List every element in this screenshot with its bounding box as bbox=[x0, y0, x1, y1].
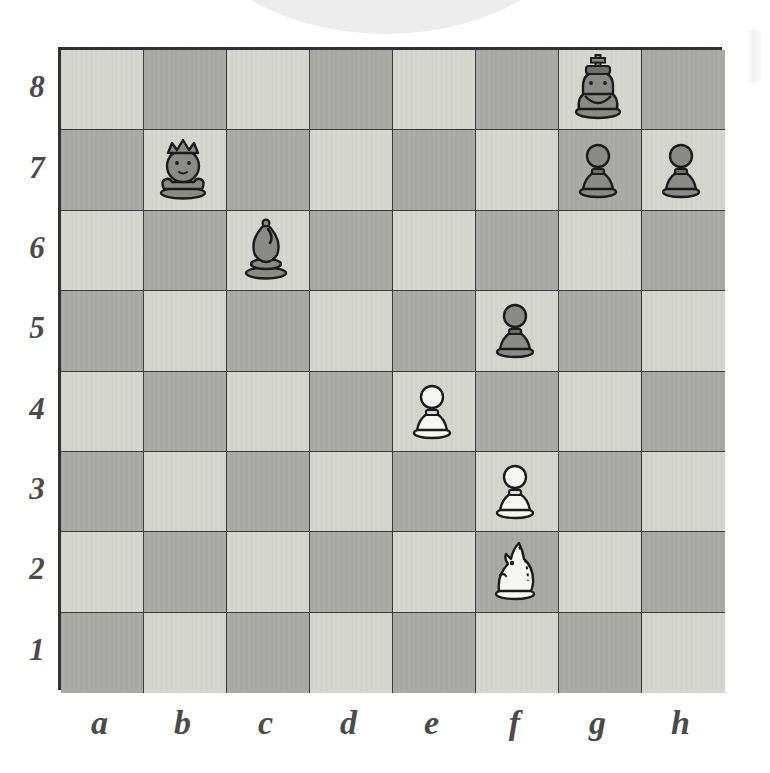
square-b5[interactable] bbox=[144, 291, 227, 371]
rank-label-2: 2 bbox=[22, 553, 52, 584]
square-a6[interactable] bbox=[61, 211, 144, 291]
square-d4[interactable] bbox=[310, 372, 393, 452]
black-king-g8[interactable] bbox=[556, 47, 639, 127]
square-e8[interactable] bbox=[393, 50, 476, 130]
square-f8[interactable] bbox=[476, 50, 559, 130]
rank-label-7: 7 bbox=[22, 152, 52, 183]
square-a4[interactable] bbox=[61, 372, 144, 452]
square-g4[interactable] bbox=[559, 372, 642, 452]
square-c8[interactable] bbox=[227, 50, 310, 130]
square-b1[interactable] bbox=[144, 613, 227, 693]
square-b2[interactable] bbox=[144, 532, 227, 612]
rank-label-3: 3 bbox=[22, 473, 52, 504]
rank-label-8: 8 bbox=[22, 71, 52, 102]
decorative-arc bbox=[186, 0, 586, 34]
black-pawn-g7[interactable] bbox=[556, 127, 639, 207]
square-e6[interactable] bbox=[393, 211, 476, 291]
square-a7[interactable] bbox=[61, 130, 144, 210]
square-h4[interactable] bbox=[642, 372, 725, 452]
square-d2[interactable] bbox=[310, 532, 393, 612]
file-label-g: g bbox=[568, 706, 628, 740]
square-e5[interactable] bbox=[393, 291, 476, 371]
black-queen-b7[interactable] bbox=[141, 127, 224, 207]
square-a3[interactable] bbox=[61, 452, 144, 532]
square-e3[interactable] bbox=[393, 452, 476, 532]
square-a2[interactable] bbox=[61, 532, 144, 612]
square-b8[interactable] bbox=[144, 50, 227, 130]
edge-smudge bbox=[746, 30, 762, 82]
black-bishop-c6[interactable] bbox=[224, 208, 307, 288]
rank-label-6: 6 bbox=[22, 232, 52, 263]
square-a8[interactable] bbox=[61, 50, 144, 130]
square-d3[interactable] bbox=[310, 452, 393, 532]
rank-label-5: 5 bbox=[22, 312, 52, 343]
rank-label-1: 1 bbox=[22, 634, 52, 665]
square-f4[interactable] bbox=[476, 372, 559, 452]
white-knight-f2[interactable] bbox=[473, 529, 556, 609]
black-pawn-h7[interactable] bbox=[639, 127, 722, 207]
square-h1[interactable] bbox=[642, 613, 725, 693]
square-d6[interactable] bbox=[310, 211, 393, 291]
white-pawn-e4[interactable] bbox=[390, 369, 473, 449]
square-c7[interactable] bbox=[227, 130, 310, 210]
square-b3[interactable] bbox=[144, 452, 227, 532]
white-pawn-f3[interactable] bbox=[473, 449, 556, 529]
square-c3[interactable] bbox=[227, 452, 310, 532]
rank-label-4: 4 bbox=[22, 393, 52, 424]
square-h8[interactable] bbox=[642, 50, 725, 130]
square-g6[interactable] bbox=[559, 211, 642, 291]
square-g2[interactable] bbox=[559, 532, 642, 612]
square-h5[interactable] bbox=[642, 291, 725, 371]
file-label-f: f bbox=[485, 706, 545, 740]
square-e2[interactable] bbox=[393, 532, 476, 612]
square-b4[interactable] bbox=[144, 372, 227, 452]
square-e7[interactable] bbox=[393, 130, 476, 210]
square-c4[interactable] bbox=[227, 372, 310, 452]
square-g5[interactable] bbox=[559, 291, 642, 371]
file-label-e: e bbox=[402, 706, 462, 740]
square-f7[interactable] bbox=[476, 130, 559, 210]
file-label-c: c bbox=[236, 706, 296, 740]
square-e1[interactable] bbox=[393, 613, 476, 693]
file-label-d: d bbox=[319, 706, 379, 740]
file-label-b: b bbox=[153, 706, 213, 740]
square-c2[interactable] bbox=[227, 532, 310, 612]
square-d5[interactable] bbox=[310, 291, 393, 371]
square-c5[interactable] bbox=[227, 291, 310, 371]
square-c1[interactable] bbox=[227, 613, 310, 693]
square-f6[interactable] bbox=[476, 211, 559, 291]
square-d7[interactable] bbox=[310, 130, 393, 210]
square-b6[interactable] bbox=[144, 211, 227, 291]
square-g3[interactable] bbox=[559, 452, 642, 532]
file-label-h: h bbox=[651, 706, 711, 740]
file-label-a: a bbox=[70, 706, 130, 740]
square-g1[interactable] bbox=[559, 613, 642, 693]
square-a1[interactable] bbox=[61, 613, 144, 693]
square-h6[interactable] bbox=[642, 211, 725, 291]
square-h2[interactable] bbox=[642, 532, 725, 612]
square-d8[interactable] bbox=[310, 50, 393, 130]
square-f1[interactable] bbox=[476, 613, 559, 693]
square-a5[interactable] bbox=[61, 291, 144, 371]
square-h3[interactable] bbox=[642, 452, 725, 532]
chess-diagram-stage: 87654321 bbox=[0, 0, 770, 773]
chess-board[interactable] bbox=[58, 47, 722, 690]
black-pawn-f5[interactable] bbox=[473, 288, 556, 368]
square-d1[interactable] bbox=[310, 613, 393, 693]
